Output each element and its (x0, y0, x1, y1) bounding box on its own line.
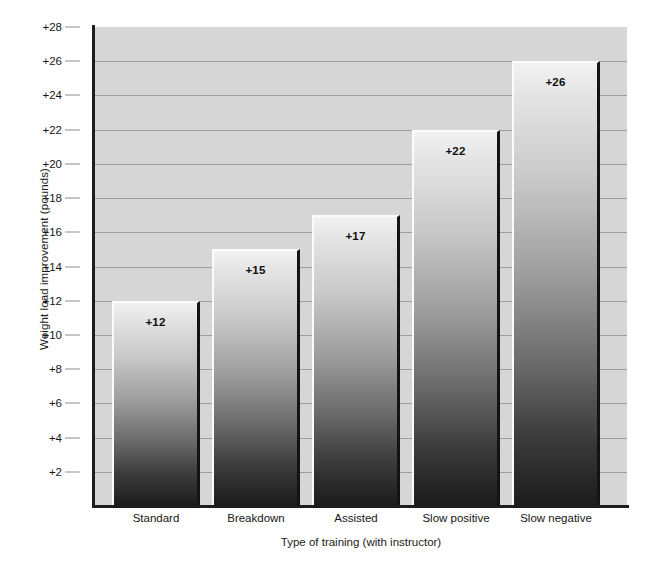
y-axis-tick-label: +24 (18, 89, 62, 101)
x-axis-category-label: Assisted (306, 512, 406, 524)
y-axis-tick-mark (65, 471, 80, 472)
x-axis-category-label: Slow positive (406, 512, 506, 524)
y-axis-tick-label: +6 (18, 397, 62, 409)
y-axis-tick-label: +26 (18, 55, 62, 67)
y-axis-tick-label: +28 (18, 21, 62, 33)
x-axis-category-label: Breakdown (206, 512, 306, 524)
y-axis-tick-label: +18 (18, 192, 62, 204)
y-axis-tick-mark (65, 437, 80, 438)
y-axis-tick-label: +12 (18, 295, 62, 307)
bar: +22 (412, 130, 500, 506)
y-axis-tick-label: +22 (18, 124, 62, 136)
bar-value-label: +15 (214, 264, 297, 276)
y-axis-tick-label: +10 (18, 329, 62, 341)
y-axis-tick-label: +4 (18, 432, 62, 444)
y-axis-tick-mark (65, 266, 80, 267)
y-axis-tick-mark (65, 198, 80, 199)
x-axis-category-labels: StandardBreakdownAssistedSlow positiveSl… (95, 512, 627, 534)
y-axis-tick-mark (65, 163, 80, 164)
y-axis-tick-mark (65, 369, 80, 370)
y-axis-tick-mark (65, 403, 80, 404)
y-axis-tick-mark (65, 334, 80, 335)
bar: +26 (512, 61, 600, 506)
y-axis-tick-label: +14 (18, 261, 62, 273)
y-axis-tick-mark (65, 95, 80, 96)
y-axis-tick-mark (65, 27, 80, 28)
bar-value-label: +12 (114, 316, 197, 328)
y-axis-tick-mark (65, 300, 80, 301)
bar-value-label: +17 (314, 230, 397, 242)
y-axis-tick-mark (65, 129, 80, 130)
bar-chart: Weight load improvement (pounds) +2+4+6+… (0, 0, 649, 562)
y-axis-tick-mark (65, 232, 80, 233)
bar: +12 (112, 301, 200, 506)
plot-area: +12+15+17+22+26 (95, 27, 627, 506)
y-axis-tick-label: +16 (18, 226, 62, 238)
y-axis-tick-label: +2 (18, 466, 62, 478)
y-axis-tick-label: +20 (18, 158, 62, 170)
bar: +17 (312, 215, 400, 506)
bar: +15 (212, 249, 300, 506)
y-axis-tick-labels: +2+4+6+8+10+12+14+16+18+20+22+24+26+28 (18, 0, 80, 562)
x-axis-title: Type of training (with instructor) (95, 536, 627, 548)
y-axis-tick-label: +8 (18, 363, 62, 375)
x-axis-category-label: Standard (106, 512, 206, 524)
x-axis-line (92, 505, 629, 508)
bar-value-label: +26 (514, 76, 597, 88)
y-axis-tick-mark (65, 61, 80, 62)
x-axis-category-label: Slow negative (506, 512, 606, 524)
bar-value-label: +22 (414, 145, 497, 157)
